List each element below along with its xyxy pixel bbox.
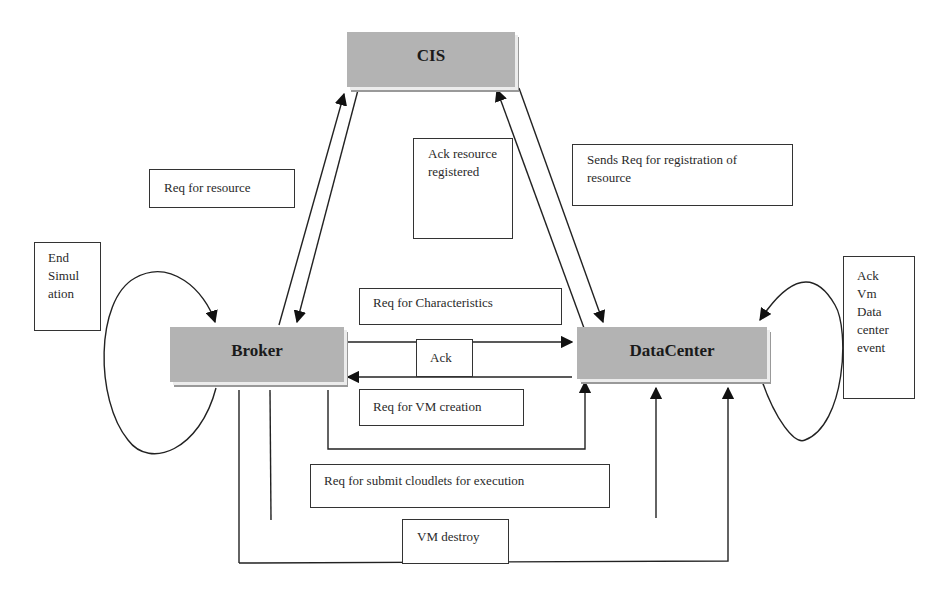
label-req-for-characteristics: Req for Characteristics <box>359 288 562 325</box>
entity-broker-label: Broker <box>231 341 283 361</box>
entity-cis: CIS <box>347 32 515 87</box>
entity-cis-label: CIS <box>417 46 445 66</box>
label-req-for-resource: Req for resource <box>149 169 295 208</box>
label-req-submit-cloudlets: Req for submit cloudlets for execution <box>310 464 610 508</box>
entity-broker: Broker <box>170 327 344 382</box>
label-sends-req-registration: Sends Req for registration of resource <box>572 144 793 206</box>
label-ack-resource-registered: Ack resource registered <box>413 138 513 239</box>
label-req-for-vm-creation: Req for VM creation <box>359 389 524 426</box>
entity-datacenter-label: DataCenter <box>630 341 715 361</box>
label-ack: Ack <box>416 339 473 377</box>
label-end-simulation: End Simul ation <box>34 242 101 331</box>
entity-datacenter: DataCenter <box>577 327 767 379</box>
label-vm-destroy: VM destroy <box>402 519 509 564</box>
label-ack-vm-datacenter-event: Ack Vm Data center event <box>843 256 915 399</box>
arrow-broker-to-cis <box>279 94 344 325</box>
loop-datacenter <box>760 282 843 441</box>
arrow-cis-to-broker <box>297 90 358 322</box>
